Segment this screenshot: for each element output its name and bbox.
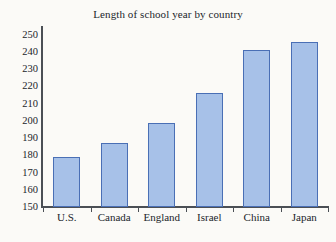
x-category-label: Canada [98,211,131,223]
x-category-label: Israel [197,211,221,223]
x-category-label: England [143,211,180,223]
x-axis-category-labels: U.S.CanadaEnglandIsraelChinaJapan [0,0,336,242]
x-category-label: Japan [292,211,317,223]
x-category-label: U.S. [57,211,77,223]
x-category-label: China [244,211,270,223]
bar-chart-figure: Length of school year by country 2502402… [0,0,336,242]
